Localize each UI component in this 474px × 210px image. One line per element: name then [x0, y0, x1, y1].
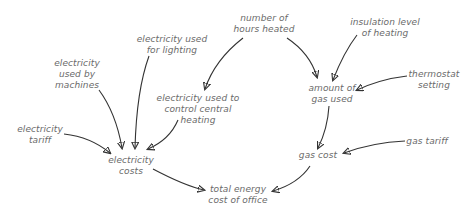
node-label: insulation level — [350, 17, 420, 28]
node-label: amount of — [308, 83, 355, 94]
node-electricity-costs: electricity costs — [108, 155, 154, 177]
node-label: electricity — [54, 58, 100, 69]
node-label: costs — [108, 166, 154, 177]
arrow-insulation-to-gas-used — [333, 35, 357, 80]
node-label: electricity used — [137, 34, 208, 45]
node-label: total energy — [208, 184, 267, 195]
arrow-gas-tariff-to-gas-cost — [344, 141, 405, 153]
node-amount-of-gas-used: amount of gas used — [308, 83, 355, 105]
arrow-lighting-to-elec-costs — [135, 56, 149, 148]
node-label: tariff — [17, 135, 63, 146]
node-label: gas cost — [299, 150, 337, 161]
node-thermostat-setting: thermostat setting — [408, 69, 459, 91]
arrow-elec-costs-to-total — [153, 169, 204, 190]
node-label: gas tariff — [406, 136, 447, 147]
node-label: thermostat — [408, 69, 459, 80]
node-label: for lighting — [137, 45, 208, 56]
node-electricity-tariff: electricity tariff — [17, 124, 63, 146]
node-label: machines — [54, 80, 100, 91]
influence-diagram: number of hours heated insulation level … — [0, 0, 474, 210]
node-label: used by — [54, 69, 100, 80]
arrow-thermostat-to-gas-used — [357, 76, 407, 90]
arrow-hours-to-gas-used — [287, 38, 317, 77]
node-label: gas used — [308, 94, 355, 105]
node-label: control central — [157, 104, 240, 115]
node-electricity-for-lighting: electricity used for lighting — [137, 34, 208, 56]
node-electricity-control-heating: electricity used to control central heat… — [157, 93, 240, 126]
node-label: cost of office — [208, 195, 267, 206]
node-label: of heating — [350, 28, 420, 39]
node-gas-tariff: gas tariff — [406, 136, 447, 147]
node-total-energy-cost: total energy cost of office — [208, 184, 267, 206]
arrow-tariff-to-elec-costs — [64, 134, 110, 153]
node-label: setting — [408, 80, 459, 91]
node-label: electricity used to — [157, 93, 240, 104]
node-label: electricity — [17, 124, 63, 135]
node-number-of-hours-heated: number of hours heated — [234, 13, 295, 35]
node-label: number of — [234, 13, 295, 24]
node-gas-cost: gas cost — [299, 150, 337, 161]
arrow-gas-used-to-gas-cost — [318, 106, 329, 148]
node-insulation-level: insulation level of heating — [350, 17, 420, 39]
node-label: hours heated — [234, 24, 295, 35]
arrow-gas-cost-to-total — [273, 166, 310, 191]
node-label: heating — [157, 115, 240, 126]
node-label: electricity — [108, 155, 154, 166]
node-electricity-used-by-machines: electricity used by machines — [54, 58, 100, 91]
arrow-hours-to-elec-heating — [205, 38, 243, 89]
arrow-machines-to-elec-costs — [99, 90, 122, 148]
